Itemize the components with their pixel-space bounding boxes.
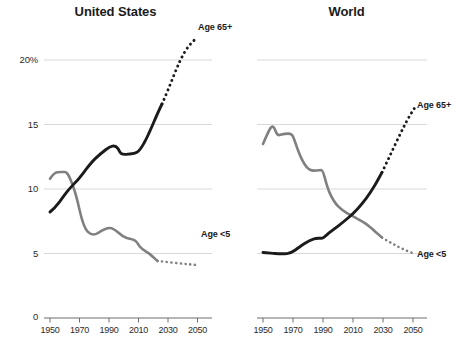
ytick-label-15: 15 [8, 119, 38, 130]
series-label-age-under5-us: Age <5 [201, 229, 230, 239]
series-label-age-65plus-us: Age 65+ [198, 22, 232, 32]
x-axis-united-states [44, 318, 212, 323]
series-line-age-65plus-observed-world [263, 172, 382, 253]
plot-area-united-states [0, 0, 231, 346]
ytick-label-0: 0 [8, 311, 38, 322]
xtick-label-2050-world: 2050 [395, 325, 431, 335]
ytick-label-20: 20% [8, 54, 38, 65]
series-label-age-65plus-world: Age 65+ [417, 100, 451, 110]
x-axis-world [257, 318, 427, 323]
series-line-age-under5-observed-world [263, 127, 382, 238]
xtick-label-2050-us: 2050 [180, 325, 216, 335]
ytick-label-5: 5 [8, 248, 38, 259]
series-line-age-under5-observed-us [50, 172, 157, 261]
panel-united-states: United States [0, 0, 231, 346]
series-line-age-under5-projected-world [382, 238, 414, 254]
figure-root: United States [0, 0, 463, 346]
chart-svg-united-states [0, 0, 231, 346]
chart-svg-world [231, 0, 462, 346]
panel-world: World [231, 0, 462, 346]
series-line-age-65plus-projected-us [162, 39, 196, 105]
ytick-label-10: 10 [8, 183, 38, 194]
series-label-age-under5-world: Age <5 [417, 249, 446, 259]
series-line-age-65plus-projected-world [382, 108, 415, 173]
series-line-age-65plus-observed-us [50, 104, 162, 212]
series-line-age-under5-projected-us [157, 261, 197, 265]
plot-area-world [231, 0, 462, 346]
gridlines-united-states [44, 60, 212, 254]
